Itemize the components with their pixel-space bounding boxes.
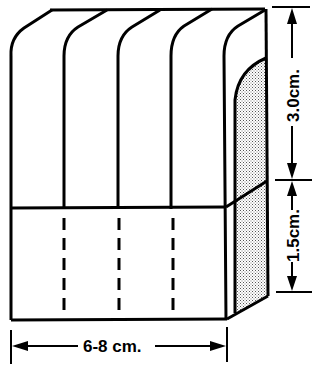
arrow-up-icon bbox=[287, 8, 297, 24]
arrow-up-icon-2 bbox=[287, 181, 297, 196]
front-bottom-edge bbox=[11, 319, 227, 320]
dim-width-label: 6-8 cm. bbox=[83, 337, 142, 356]
arrow-right-icon bbox=[210, 341, 226, 351]
arrow-down-icon-2 bbox=[287, 276, 297, 291]
side-face-lower-shaded bbox=[235, 182, 268, 313]
dim-1-5cm-label: 1.5cm. bbox=[284, 209, 303, 262]
dim-3cm-label: 3.0cm. bbox=[284, 69, 303, 122]
block-diagram: 3.0cm. 1.5cm. 6-8 cm. bbox=[0, 0, 317, 373]
arrow-down-icon bbox=[287, 163, 297, 179]
front-horizontal-divider bbox=[11, 207, 226, 208]
arrow-left-icon bbox=[12, 341, 28, 351]
column-divider-1 bbox=[64, 10, 107, 209]
column-divider-2 bbox=[118, 10, 160, 209]
right-back-edge bbox=[266, 9, 268, 296]
column-divider-3 bbox=[171, 9, 212, 209]
front-left-curve bbox=[11, 10, 52, 320]
